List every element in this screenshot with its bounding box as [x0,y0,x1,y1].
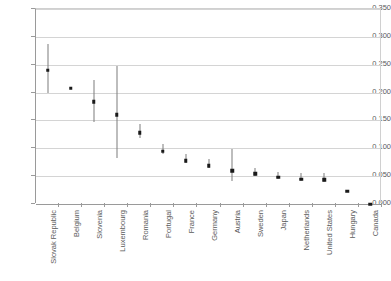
x-axis-category-label: Slovak Republic [50,156,58,210]
data-point-group [336,9,359,204]
data-point-group [221,9,244,204]
data-point-group [128,9,151,204]
x-axis-category-label: Canada [372,184,380,210]
error-bar [116,66,117,158]
y-axis-tick-mark [31,203,35,204]
data-point-group [359,9,382,204]
data-point-group [197,9,220,204]
data-point-marker[interactable] [253,172,257,176]
x-axis-tick-mark [81,203,82,207]
x-axis-tick-mark [220,203,221,207]
data-point-marker[interactable] [46,69,50,73]
data-point-marker[interactable] [161,149,165,153]
x-axis-category-label: Austria [234,187,242,210]
x-axis-category-label: Sweden [257,183,265,210]
data-point-group [174,9,197,204]
x-axis-category-label: Luxembourg [119,168,127,210]
x-axis-category-label: Belgium [73,183,81,210]
x-axis-tick-mark [381,203,382,207]
x-axis-category-label: Hungary [349,182,357,210]
x-axis-category-label: Portugal [165,182,173,210]
x-axis-tick-mark [150,203,151,207]
x-axis-tick-mark [104,203,105,207]
x-axis-tick-mark [358,203,359,207]
x-axis-category-label: Slovenia [96,181,104,210]
x-axis-category-label: Romania [142,180,150,210]
x-axis-category-label: Germany [211,179,219,210]
data-point-marker[interactable] [230,169,234,173]
data-point-group [82,9,105,204]
x-axis-category-label: Japan [280,190,288,210]
x-axis-tick-mark [196,203,197,207]
data-point-group [244,9,267,204]
x-axis-tick-mark [243,203,244,207]
x-axis-tick-mark [312,203,313,207]
x-axis-category-label: United States [326,165,334,210]
x-axis-tick-mark [173,203,174,207]
x-axis-tick-mark [58,203,59,207]
data-point-group [267,9,290,204]
x-axis-tick-mark [289,203,290,207]
data-point-marker[interactable] [276,176,280,180]
data-point-marker[interactable] [115,113,119,117]
x-axis-tick-mark [266,203,267,207]
x-axis-category-label: France [188,187,196,210]
data-point-marker[interactable] [207,164,211,168]
data-point-marker[interactable] [138,131,142,135]
data-point-marker[interactable] [69,86,73,90]
error-bar [232,149,233,180]
data-point-group [59,9,82,204]
x-axis-category-label: Netherlands [303,170,311,210]
x-axis-tick-mark [335,203,336,207]
data-point-group [151,9,174,204]
data-point-marker[interactable] [92,100,96,104]
chart-root: 0.0000.0500.1000.1500.2000.2500.3000.350… [0,0,391,281]
data-point-marker[interactable] [184,159,188,163]
x-axis-tick-mark [127,203,128,207]
